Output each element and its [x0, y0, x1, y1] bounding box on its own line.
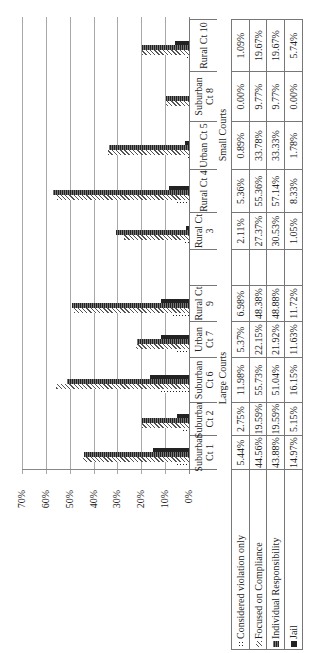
bar-considered-violation-only [176, 462, 189, 466]
bar-focused-on-compliance [124, 235, 189, 240]
y-axis-line [22, 469, 189, 470]
bar-focused-on-compliance [56, 384, 189, 389]
legend-swatch-icon [238, 641, 244, 647]
bar-considered-violation-only [182, 428, 189, 432]
y-tick-label: 50% [65, 490, 75, 520]
bar-considered-violation-only [172, 313, 189, 317]
group-label-small: Small Courts [217, 20, 228, 250]
table-value-cell [266, 249, 285, 286]
table-value-cell: 33.33% [266, 121, 285, 170]
table-value-cell: 43.88% [266, 435, 285, 470]
table-value-cell: 11.72% [284, 285, 303, 322]
table-header-cell: Urban Ct 7 [189, 321, 217, 358]
bar-focused-on-compliance [166, 101, 189, 106]
bar-individual-responsibility [72, 303, 189, 308]
bar-focused-on-compliance [142, 50, 189, 55]
gridline [94, 17, 95, 474]
gridline [22, 17, 23, 474]
bar-focused-on-compliance [74, 308, 189, 313]
table-value-cell: 1.05% [284, 212, 303, 250]
table-value-cell: 11.98% [231, 357, 250, 403]
bar-focused-on-compliance [142, 423, 189, 428]
bar-individual-responsibility [109, 145, 189, 150]
y-tick-label: 0% [184, 490, 194, 520]
bar-individual-responsibility [67, 379, 189, 384]
bar-individual-responsibility [137, 339, 189, 344]
table-value-cell: 30.53% [266, 212, 285, 250]
table-value-cell: 5.74% [284, 19, 303, 72]
table-value-cell: 5.15% [284, 402, 303, 436]
y-tick-label: 20% [136, 490, 146, 520]
legend-swatch-icon [273, 641, 279, 647]
bar-jail [161, 335, 189, 339]
table-value-cell: 5.44% [231, 435, 250, 470]
bar-jail [153, 448, 189, 452]
table-header-cell: Rural Ct 4 [189, 169, 217, 213]
legend-row-label: Considered violation only [231, 469, 250, 650]
legend-swatch-icon [256, 641, 262, 647]
bar-considered-violation-only [160, 389, 189, 393]
table-header-cell: Rural Ct 10 [189, 19, 217, 72]
gridline [70, 17, 71, 474]
legend-label: Individual Responsibility [270, 538, 281, 639]
bar-jail [175, 41, 189, 45]
bar-focused-on-compliance [108, 150, 189, 155]
bar-jail [177, 414, 189, 418]
table-value-cell: 16.15% [284, 357, 303, 403]
table-value-cell [284, 249, 303, 286]
table-header-cell: Rural Ct 3 [189, 212, 217, 250]
table-value-cell: 1.78% [284, 121, 303, 170]
bar-focused-on-compliance [57, 195, 189, 200]
table-value-cell: 1.09% [231, 19, 250, 72]
y-tick-label: 70% [17, 490, 27, 520]
table-header-cell: Suburban Ct 6 [189, 357, 217, 403]
table-value-cell: 51.04% [266, 357, 285, 403]
table-value-cell: 2.75% [231, 402, 250, 436]
table-header-cell: Rural Ct 9 [189, 285, 217, 322]
table-value-cell: 5.36% [231, 169, 250, 213]
bar-considered-violation-only [176, 349, 189, 353]
bar-individual-responsibility [166, 96, 189, 101]
gridline [117, 17, 118, 474]
table-header-cell: Suburban Ct 2 [189, 402, 217, 436]
bar-focused-on-compliance [136, 344, 189, 349]
table-value-cell: 19.67% [266, 19, 285, 72]
legend-row-label: Individual Responsibility [266, 469, 285, 650]
legend-label: Focused on Compliance [253, 542, 264, 639]
y-tick-label: 30% [112, 490, 122, 520]
table-header-cell: Suburban Ct 1 [189, 435, 217, 470]
legend-label: Considered violation only [235, 535, 246, 639]
table-value-cell: 9.77% [266, 71, 285, 122]
legend-row-label: Jail [284, 469, 303, 650]
table-value-cell: 11.63% [284, 321, 303, 358]
rotated-chart: 0%10%20%30%40%50%60%70%Suburban Ct 1Subu… [0, 0, 311, 653]
gridline [165, 17, 166, 474]
y-tick-label: 60% [41, 490, 51, 520]
legend-label: Jail [288, 625, 299, 639]
bar-focused-on-compliance [83, 457, 189, 462]
table-value-cell: 19.59% [266, 402, 285, 436]
table-value-cell: 48.88% [266, 285, 285, 322]
bar-individual-responsibility [116, 230, 189, 235]
bar-considered-violation-only [176, 200, 189, 204]
bar-jail [161, 299, 189, 303]
table-value-cell: 6.98% [231, 285, 250, 322]
group-label-large: Large Courts [217, 286, 228, 470]
bar-individual-responsibility [142, 45, 189, 50]
table-value-cell: 0.00% [231, 71, 250, 122]
table-header-cell: Suburban Ct 8 [189, 71, 217, 122]
table-value-cell: 21.92% [266, 321, 285, 358]
table-header-cell: Urban Ct 5 [189, 121, 217, 170]
table-value-cell: 8.33% [284, 169, 303, 213]
gridline [141, 17, 142, 474]
table-value-cell [231, 249, 250, 286]
table-value-cell: 57.14% [266, 169, 285, 213]
bar-individual-responsibility [84, 452, 189, 457]
table-value-cell: 0.89% [231, 121, 250, 170]
table-value-cell: 14.97% [284, 435, 303, 470]
table-value-cell: 2.11% [231, 212, 250, 250]
table-value-cell: 0.00% [284, 71, 303, 122]
bar-jail [150, 375, 189, 379]
table-header-cell [189, 249, 217, 286]
gridline [46, 17, 47, 474]
